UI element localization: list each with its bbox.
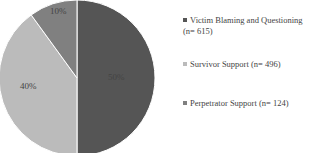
slice-label-10: 10% (50, 6, 67, 16)
legend-item-perpetrator-support: Perpetrator Support (n= 124) (183, 98, 315, 109)
legend-label: Victim Blaming and Questioning (n= 615) (183, 15, 303, 36)
legend-swatch-icon (183, 101, 187, 105)
legend-item-victim-blaming: Victim Blaming and Questioning (n= 615) (183, 15, 315, 37)
slice-label-40: 40% (20, 81, 37, 91)
legend-swatch-icon (183, 18, 187, 22)
legend-item-survivor-support: Survivor Support (n= 496) (183, 59, 315, 70)
legend-label: Survivor Support (n= 496) (190, 59, 281, 69)
slice-label-50: 50% (108, 72, 125, 82)
pie-chart: 50% 40% 10% (0, 0, 160, 153)
legend-swatch-icon (183, 62, 187, 66)
legend-label: Perpetrator Support (n= 124) (190, 98, 289, 108)
